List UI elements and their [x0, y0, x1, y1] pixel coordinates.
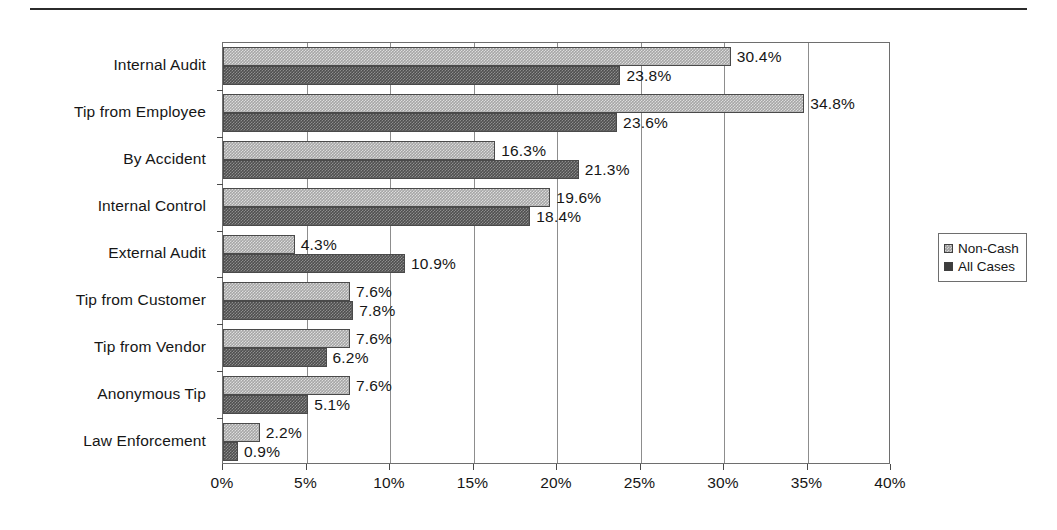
legend-swatch-icon: [944, 262, 953, 271]
bar-non-cash: [223, 423, 260, 442]
bar-value-label: 16.3%: [501, 141, 546, 160]
bar-all-cases: [223, 254, 405, 273]
bar-non-cash: [223, 282, 350, 301]
top-divider-rule: [30, 8, 1027, 10]
axis-tick-label: 35%: [791, 474, 823, 492]
bar-all-cases: [223, 113, 617, 132]
category-tick-mark: [217, 184, 223, 185]
axis-tick-label: 25%: [624, 474, 656, 492]
axis-tick-mark: [890, 464, 891, 470]
bar-value-label: 19.6%: [556, 188, 601, 207]
axis-tick-mark: [306, 464, 307, 470]
axis-tick-label: 40%: [874, 474, 906, 492]
legend-label: Non-Cash: [958, 242, 1019, 256]
legend-item[interactable]: Non-Cash: [944, 240, 1019, 257]
bar-non-cash: [223, 94, 804, 113]
axis-tick-label: 20%: [540, 474, 572, 492]
bar-value-label: 21.3%: [585, 160, 630, 179]
category-tick-mark: [217, 324, 223, 325]
axis-tick-label: 15%: [457, 474, 489, 492]
category-label: Tip from Employee: [0, 104, 206, 120]
bar-value-label: 10.9%: [411, 254, 456, 273]
axis-tick-mark: [473, 464, 474, 470]
bar-value-label: 2.2%: [266, 423, 302, 442]
category-label: Internal Control: [0, 198, 206, 214]
category-tick-mark: [217, 277, 223, 278]
bar-value-label: 23.8%: [626, 66, 671, 85]
legend-swatch-icon: [944, 244, 953, 253]
bar-value-label: 4.3%: [301, 235, 337, 254]
gridline: [808, 43, 809, 463]
axis-tick-mark: [222, 464, 223, 470]
bar-value-label: 30.4%: [737, 47, 782, 66]
axis-tick-mark: [723, 464, 724, 470]
category-tick-mark: [217, 137, 223, 138]
category-label: Law Enforcement: [0, 433, 206, 449]
axis-tick-label: 10%: [373, 474, 405, 492]
bar-non-cash: [223, 376, 350, 395]
axis-tick-label: 5%: [294, 474, 317, 492]
bar-value-label: 23.6%: [623, 113, 668, 132]
bar-all-cases: [223, 301, 353, 320]
axis-tick-label: 0%: [211, 474, 234, 492]
plot-area: 30.4%23.8%34.8%23.6%16.3%21.3%19.6%18.4%…: [222, 42, 890, 464]
category-label: By Accident: [0, 151, 206, 167]
bar-all-cases: [223, 442, 238, 461]
category-axis-labels: Internal AuditTip from EmployeeBy Accide…: [0, 42, 206, 464]
axis-tick-mark: [807, 464, 808, 470]
bar-value-label: 7.6%: [356, 329, 392, 348]
bar-all-cases: [223, 395, 308, 414]
legend-item[interactable]: All Cases: [944, 258, 1019, 275]
bar-all-cases: [223, 207, 530, 226]
bar-non-cash: [223, 329, 350, 348]
bar-all-cases: [223, 66, 620, 85]
bar-value-label: 18.4%: [536, 207, 581, 226]
bar-all-cases: [223, 348, 327, 367]
chart-legend: Non-CashAll Cases: [938, 233, 1027, 282]
category-tick-mark: [217, 231, 223, 232]
category-label: External Audit: [0, 245, 206, 261]
legend-label: All Cases: [958, 260, 1015, 274]
chart-figure: Internal AuditTip from EmployeeBy Accide…: [0, 0, 1057, 530]
bar-non-cash: [223, 235, 295, 254]
bar-non-cash: [223, 141, 495, 160]
bar-non-cash: [223, 188, 550, 207]
category-tick-mark: [217, 418, 223, 419]
category-tick-mark: [217, 371, 223, 372]
bar-all-cases: [223, 160, 579, 179]
value-axis: 0%5%10%15%20%25%30%35%40%: [222, 464, 892, 504]
category-tick-mark: [217, 90, 223, 91]
axis-tick-mark: [556, 464, 557, 470]
category-label: Anonymous Tip: [0, 386, 206, 402]
bar-value-label: 7.6%: [356, 376, 392, 395]
category-label: Tip from Customer: [0, 292, 206, 308]
bar-value-label: 7.6%: [356, 282, 392, 301]
axis-tick-mark: [389, 464, 390, 470]
bar-value-label: 34.8%: [810, 94, 855, 113]
bar-value-label: 6.2%: [333, 348, 369, 367]
category-label: Internal Audit: [0, 57, 206, 73]
bar-value-label: 5.1%: [314, 395, 350, 414]
category-label: Tip from Vendor: [0, 339, 206, 355]
bar-value-label: 0.9%: [244, 442, 280, 461]
bar-value-label: 7.8%: [359, 301, 395, 320]
bar-non-cash: [223, 47, 731, 66]
axis-tick-label: 30%: [707, 474, 739, 492]
axis-tick-mark: [640, 464, 641, 470]
